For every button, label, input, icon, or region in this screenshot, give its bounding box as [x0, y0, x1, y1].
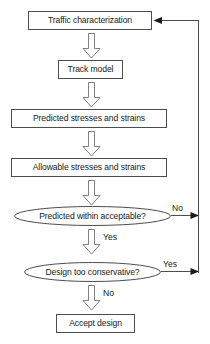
node-accept-design: Accept design [56, 314, 135, 333]
edge-label-no-conservative: No [103, 289, 114, 298]
node-traffic-characterization: Traffic characterization [28, 11, 152, 30]
block-arrow-down-6 [82, 285, 101, 311]
node-predicted-within-acceptable: Predicted within acceptable? [14, 206, 171, 226]
node-design-too-conservative: Design too conservative? [24, 262, 161, 282]
block-arrow-down-1 [82, 33, 101, 59]
edge-label-yes-acceptable: Yes [103, 233, 117, 242]
node-track-model: Track model [58, 60, 123, 79]
edge-label-yes-conservative: Yes [163, 260, 177, 269]
node-predicted-stresses-strains: Predicted stresses and strains [11, 109, 167, 128]
block-arrow-down-5 [82, 229, 101, 255]
node-label: Track model [68, 65, 114, 74]
block-arrow-down-2 [82, 82, 101, 108]
node-label: Predicted stresses and strains [33, 114, 145, 123]
node-label: Traffic characterization [48, 16, 132, 25]
flowchart-diagram: Traffic characterization Track model Pre… [0, 0, 210, 344]
node-label: Allowable stresses and strains [33, 163, 146, 172]
edge-label-no-acceptable: No [172, 204, 183, 213]
block-arrow-down-3 [82, 131, 101, 157]
node-label: Predicted within acceptable? [14, 206, 171, 226]
block-arrow-down-4 [82, 180, 101, 206]
node-label: Accept design [69, 319, 122, 328]
node-allowable-stresses-strains: Allowable stresses and strains [11, 158, 167, 177]
node-label: Design too conservative? [24, 262, 161, 282]
